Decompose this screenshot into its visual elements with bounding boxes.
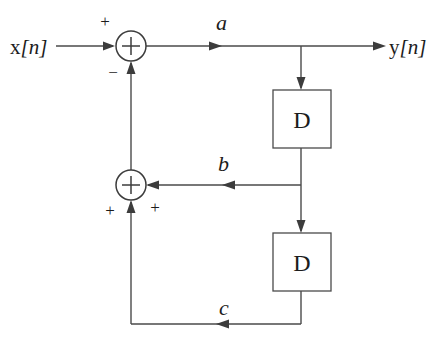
arrowhead-c-sum [127,200,136,213]
diagram-canvas: + − + + D D x[n] y[n] a b c [0,0,442,339]
arrowhead-output [373,42,386,51]
output-label-base: y [389,35,400,59]
sign-label-top-positive: + [100,12,110,31]
input-label-base: x [10,35,21,59]
summing-node-bottom [116,170,146,200]
output-label: y[n] [389,35,426,59]
sign-label-bottom-right-positive: + [150,198,160,217]
signal-label-c: c [219,295,229,320]
signal-label-a: a [216,10,227,35]
signal-flow-diagram: + − + + D D x[n] y[n] a b c [0,0,442,339]
signal-label-b: b [218,151,229,176]
sign-label-top-negative: − [108,63,118,82]
arrowhead-c [216,320,229,329]
input-label-index: [n] [21,35,48,59]
arrowhead-input [103,42,115,51]
delay-block-1: D [273,90,331,148]
summing-node-top [116,31,146,61]
delay-block-1-label: D [293,107,310,133]
arrowhead-a [209,42,222,51]
arrowhead-feedback [127,61,136,74]
arrowhead-b-sum [146,181,159,190]
output-label-index: [n] [400,35,427,59]
sign-label-bottom-left-positive: + [105,201,115,220]
delay-block-2: D [273,233,331,291]
arrowhead-delay2-in [297,220,306,233]
arrowhead-b [222,181,235,190]
delay-block-2-label: D [293,250,310,276]
arrowhead-delay1-in [297,77,306,90]
input-label: x[n] [10,35,47,59]
